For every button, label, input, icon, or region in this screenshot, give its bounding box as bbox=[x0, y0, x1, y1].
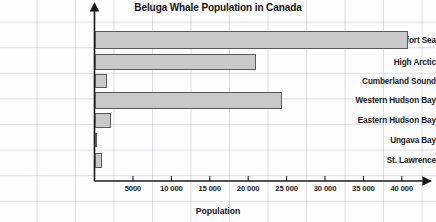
bar-beaufort-sea bbox=[95, 31, 408, 49]
xtick-label-5000: 5000 bbox=[125, 184, 142, 193]
xtick-label-25000: 25 000 bbox=[275, 184, 298, 193]
xtick-label-10000: 10 000 bbox=[160, 184, 183, 193]
category-label-st-lawrence: St. Lawrence bbox=[345, 156, 436, 165]
category-label-cumberland-sound: Cumberland Sound bbox=[345, 77, 436, 86]
bar-ungava-bay bbox=[95, 133, 98, 147]
bar-eastern-hudson-bay bbox=[95, 113, 111, 128]
xtick-label-15000: 15 000 bbox=[198, 184, 221, 193]
bar-western-hudson-bay bbox=[95, 92, 282, 109]
xtick-label-20000: 20 000 bbox=[237, 184, 260, 193]
chart-title: Beluga Whale Population in Canada bbox=[0, 2, 436, 13]
bar-chart: Beluga Whale Population in Canada Beaufo… bbox=[0, 0, 436, 222]
category-label-western-hudson-bay: Western Hudson Bay bbox=[345, 96, 436, 105]
bar-st-lawrence bbox=[95, 153, 103, 168]
bar-high-arctic bbox=[95, 54, 256, 70]
xtick-label-35000: 35 000 bbox=[352, 184, 375, 193]
category-label-ungava-bay: Ungava Bay bbox=[345, 136, 436, 145]
x-axis-label: Population bbox=[0, 206, 436, 216]
category-label-eastern-hudson-bay: Eastern Hudson Bay bbox=[345, 116, 436, 125]
category-label-high-arctic: High Arctic bbox=[345, 58, 436, 67]
bar-cumberland-sound bbox=[95, 74, 107, 88]
xtick-label-30000: 30 000 bbox=[314, 184, 337, 193]
xtick-label-40000: 40 000 bbox=[390, 184, 413, 193]
